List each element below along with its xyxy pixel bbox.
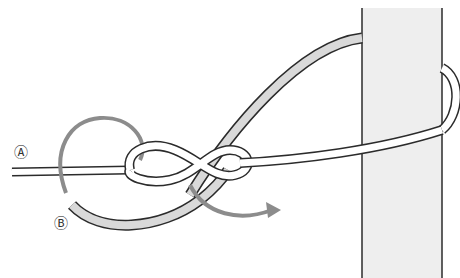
label-a: Ⓐ	[14, 145, 28, 159]
figure-eight-knot	[129, 146, 248, 181]
knot-diagram	[0, 0, 460, 278]
standing-part-a	[12, 170, 130, 172]
label-b: Ⓑ	[54, 216, 68, 230]
post-wrap	[442, 68, 456, 130]
